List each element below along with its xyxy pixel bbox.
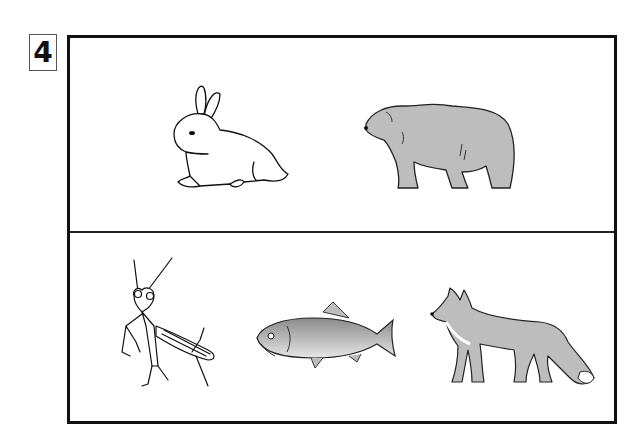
panel-divider (70, 231, 614, 233)
question-number: 4 (33, 36, 52, 69)
fox-image (430, 286, 598, 392)
bear-image (362, 100, 522, 192)
rabbit-image (160, 82, 295, 192)
mantis-image (112, 256, 232, 391)
carp-fish-image (253, 300, 398, 368)
question-number-box: 4 (29, 34, 57, 71)
